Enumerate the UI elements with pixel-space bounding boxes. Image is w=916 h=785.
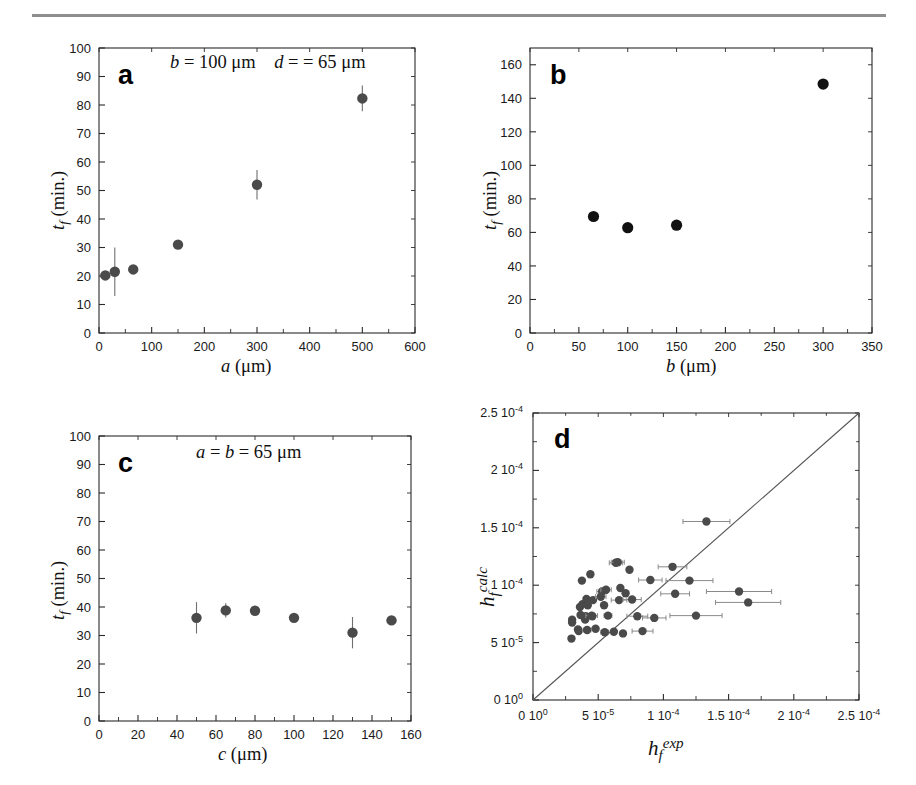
ylabel-d-symbol: h [475, 597, 499, 608]
annot-c-b-sym: b [225, 442, 234, 462]
data-point [633, 612, 641, 620]
ylabel-c-units: (min.) [48, 561, 68, 607]
panel-d-ylabel: hfcalc [474, 567, 503, 607]
panel-a: 0100200300400500600010203040506070809010… [0, 0, 458, 392]
x-tick-label: 350 [861, 339, 883, 354]
plot-frame [530, 48, 872, 333]
data-point [250, 606, 260, 616]
data-point [289, 613, 299, 623]
tick-label: 5 10-5 [582, 707, 614, 723]
data-point [588, 211, 599, 222]
data-point [735, 587, 743, 595]
panel-letter: d [554, 424, 571, 454]
tick-label: 2.5 10-4 [838, 707, 881, 723]
data-point [622, 222, 633, 233]
y-tick-label: 60 [508, 225, 522, 240]
y-tick-label: 0 [84, 326, 91, 341]
ylabel-b-symbol: t [480, 225, 500, 230]
y-tick-label: 90 [77, 69, 91, 84]
tick-label: 1 10-4 [647, 707, 679, 723]
ylabel-c-symbol: t [48, 615, 68, 620]
y-tick-label: 20 [508, 292, 522, 307]
y-tick-label: 10 [77, 685, 91, 700]
y-tick-label: 100 [69, 429, 91, 444]
tick-label: 2.5 10-4 [480, 404, 523, 420]
data-point [614, 558, 622, 566]
x-tick-label: 60 [209, 727, 223, 742]
data-point [744, 598, 752, 606]
y-tick-label: 90 [77, 457, 91, 472]
data-point [588, 612, 596, 620]
tick-label: 2 10-4 [491, 461, 523, 477]
xlabel-b-units: (μm) [680, 356, 717, 376]
panel-a-annotation: b = 100 μm d = = 65 μm [170, 52, 366, 73]
data-point [671, 220, 682, 231]
tick-label: 2 10-4 [778, 707, 810, 723]
y-tick-label: 30 [77, 628, 91, 643]
x-tick-label: 0 [526, 339, 533, 354]
panel-c-ylabel: tf (min.) [48, 561, 72, 620]
data-point [128, 264, 138, 274]
y-tick-label: 50 [77, 183, 91, 198]
panel-b-ylabel: tf (min.) [480, 171, 504, 230]
data-point [578, 576, 586, 584]
annot-a-b-val: = 100 μm [184, 52, 256, 72]
y-tick-label: 40 [508, 259, 522, 274]
y-tick-label: 20 [77, 269, 91, 284]
y-tick-label: 0 [84, 714, 91, 729]
x-tick-label: 100 [141, 339, 163, 354]
annot-c-val: = 65 μm [239, 442, 302, 462]
y-tick-label: 60 [77, 155, 91, 170]
data-point [586, 570, 594, 578]
data-point [610, 627, 618, 635]
data-point [574, 627, 582, 635]
y-tick-label: 100 [69, 41, 91, 56]
data-point [600, 601, 608, 609]
tick-label: 1.5 10-4 [707, 707, 750, 723]
x-tick-label: 140 [361, 727, 383, 742]
data-point [567, 634, 575, 642]
x-tick-label: 300 [812, 339, 834, 354]
xlabel-d-symbol: h [648, 736, 659, 760]
plot-frame [99, 436, 411, 721]
data-point [615, 596, 623, 604]
x-tick-label: 500 [351, 339, 373, 354]
xlabel-c-units: (μm) [231, 744, 268, 764]
y-tick-label: 140 [500, 91, 522, 106]
x-tick-label: 100 [617, 339, 639, 354]
x-tick-label: 0 [95, 339, 102, 354]
ylabel-a-symbol: t [48, 225, 68, 230]
panel-a-ylabel: tf (min.) [48, 171, 72, 230]
panel-c: 0204060801001201401600102030405060708090… [0, 392, 458, 785]
ylabel-d-sub: f [486, 592, 502, 596]
x-tick-label: 250 [763, 339, 785, 354]
x-tick-label: 300 [246, 339, 268, 354]
panel-letter: b [550, 60, 567, 90]
panel-b-plot: 0501001502002503003500204060801001201401… [458, 0, 916, 392]
x-tick-label: 160 [400, 727, 422, 742]
data-point [621, 589, 629, 597]
data-point [818, 78, 829, 89]
data-point [357, 93, 367, 103]
y-tick-label: 30 [77, 240, 91, 255]
y-tick-label: 120 [500, 125, 522, 140]
y-tick-label: 70 [77, 126, 91, 141]
tick-label: 0 100 [518, 707, 547, 723]
x-tick-label: 0 [95, 727, 102, 742]
x-tick-label: 20 [131, 727, 145, 742]
xlabel-a-symbol: a [221, 356, 230, 376]
panel-a-xlabel: a (μm) [221, 356, 272, 377]
data-point [638, 627, 646, 635]
data-point [625, 566, 633, 574]
tick-label: 1.5 10-4 [480, 519, 523, 535]
data-point [619, 629, 627, 637]
x-tick-label: 200 [715, 339, 737, 354]
data-point [692, 611, 700, 619]
y-tick-label: 40 [77, 212, 91, 227]
data-point [601, 628, 609, 636]
y-tick-label: 80 [77, 486, 91, 501]
y-tick-label: 50 [77, 571, 91, 586]
y-tick-label: 80 [77, 98, 91, 113]
x-tick-label: 120 [322, 727, 344, 742]
panel-letter: a [118, 60, 134, 90]
